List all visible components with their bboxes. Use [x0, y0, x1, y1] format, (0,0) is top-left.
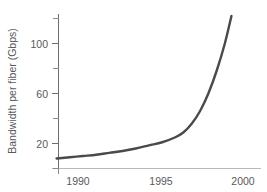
x-tick-label-2000: 2000 — [231, 175, 255, 187]
y-axis-title: Bandwidth per fiber (Gbps) — [6, 28, 18, 153]
y-tick-label-60: 60 — [36, 88, 48, 100]
y-axis-ticks — [52, 19, 59, 169]
bandwidth-growth-chart: 20 60 100 1990 1995 2000 Bandwidth per f… — [0, 0, 267, 192]
chart-figure: 20 60 100 1990 1995 2000 Bandwidth per f… — [0, 0, 267, 192]
x-tick-label-1995: 1995 — [149, 175, 173, 187]
y-tick-label-20: 20 — [36, 138, 48, 150]
x-tick-label-1990: 1990 — [66, 175, 90, 187]
y-tick-label-100: 100 — [30, 38, 48, 50]
data-series-line — [57, 16, 232, 159]
